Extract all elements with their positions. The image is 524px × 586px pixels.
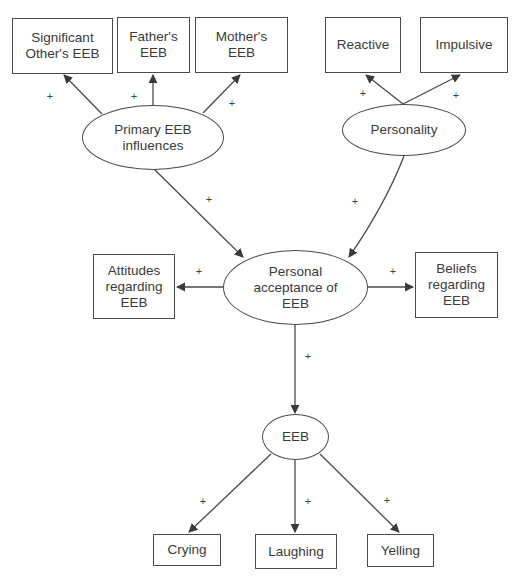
sign-acceptance-to-eeb: + [303,351,313,362]
node-laughing: Laughing [255,534,337,569]
node-impulsive: Impulsive [420,17,508,73]
sign-personality-to-reactive: + [358,88,368,99]
node-eeb: EEB [262,414,329,460]
edge-personality-to-reactive [366,75,403,104]
sign-personality-to-impulsive: + [451,90,461,101]
sign-eeb-to-crying: + [198,496,208,507]
sign-acceptance-to-attitudes: + [194,266,204,277]
node-mothers-eeb: Mother's EEB [195,17,288,73]
sign-primary-to-mother: + [227,98,237,109]
node-crying: Crying [153,534,221,566]
sign-acceptance-to-beliefs: + [388,266,398,277]
node-fathers-eeb: Father's EEB [117,17,190,73]
edge-primary-to-sig-other [64,75,102,114]
sign-eeb-to-yelling: + [382,495,392,506]
node-significant-others-eeb: Significant Other's EEB [12,18,113,74]
edge-eeb-to-crying [189,454,271,532]
node-yelling: Yelling [367,534,434,567]
sign-primary-to-sig-other: + [45,91,55,102]
node-primary-eeb-influences: Primary EEB influences [82,105,224,170]
sign-personality-to-acceptance: + [350,196,360,207]
edge-personality-to-acceptance [349,156,404,257]
sign-eeb-to-laughing: + [303,496,313,507]
edge-primary-to-acceptance [154,169,243,257]
node-attitudes-regarding-eeb: Attitudes regarding EEB [93,254,175,319]
node-personality: Personality [342,104,466,156]
sign-primary-to-acceptance: + [204,194,214,205]
sign-primary-to-father: + [129,91,139,102]
node-beliefs-regarding-eeb: Beliefs regarding EEB [415,252,498,318]
node-reactive: Reactive [325,17,401,73]
node-personal-acceptance-of-eeb: Personal acceptance of EEB [223,250,368,325]
